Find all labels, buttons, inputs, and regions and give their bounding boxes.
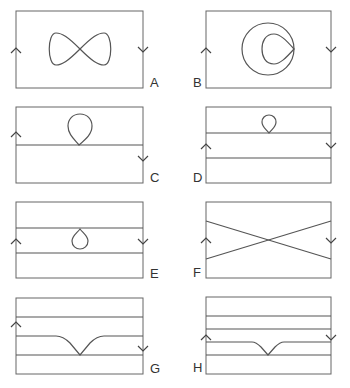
- panel-label-d: D: [193, 170, 202, 185]
- panel-b: B: [193, 11, 336, 90]
- panel-h-frame: [206, 297, 331, 374]
- panel-label-h: H: [193, 360, 202, 375]
- panel-label-a: A: [150, 75, 159, 90]
- teardrop-loop: [68, 114, 92, 145]
- panel-label-e: E: [150, 266, 159, 281]
- panel-label-f: F: [193, 265, 201, 280]
- teardrop-loop: [262, 115, 276, 133]
- panel-label-g: G: [150, 361, 160, 376]
- dipping-line: [206, 342, 331, 355]
- figure-eight-loop: [49, 33, 111, 65]
- teardrop-loop: [72, 229, 88, 249]
- panel-e-frame: [16, 202, 143, 278]
- panel-d-frame: [206, 107, 331, 183]
- panel-g: G: [11, 298, 160, 376]
- diagram-figure: A B C D E: [0, 0, 350, 388]
- inner-teardrop-loop: [262, 34, 294, 64]
- panel-f: F: [193, 202, 336, 280]
- panel-e: E: [11, 202, 159, 281]
- panel-c: C: [11, 107, 159, 185]
- panel-label-b: B: [193, 75, 202, 90]
- panel-d: D: [193, 107, 336, 185]
- panel-label-c: C: [150, 170, 159, 185]
- outer-circle: [242, 23, 294, 75]
- dipping-line: [16, 336, 143, 355]
- panel-a: A: [11, 11, 159, 90]
- panel-h: H: [193, 297, 336, 375]
